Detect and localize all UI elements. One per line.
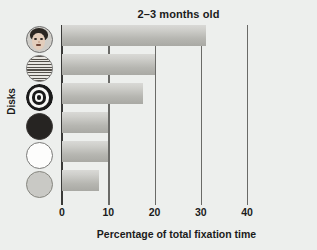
gridline-10 xyxy=(108,25,109,205)
disk-slot-gray xyxy=(22,170,56,199)
bar-row xyxy=(62,112,108,133)
x-axis-label: Percentage of total fixation time xyxy=(40,228,313,240)
bar-white xyxy=(62,141,108,162)
chart-title: 2–3 months old xyxy=(0,8,317,20)
newsprint-lines xyxy=(27,56,52,81)
bar-bullseye xyxy=(62,83,143,104)
bar-row xyxy=(62,170,99,191)
x-tick-label-0: 0 xyxy=(59,206,65,218)
face-nose xyxy=(38,41,40,43)
gridline-40 xyxy=(247,25,248,205)
disk-slot-face xyxy=(22,25,56,54)
bar-row xyxy=(62,83,143,104)
black-disk-icon xyxy=(26,113,53,140)
bar-row xyxy=(62,54,155,75)
y-axis-label: Disks xyxy=(6,77,17,127)
x-tick-label-30: 30 xyxy=(195,206,207,218)
gray-disk-icon xyxy=(26,171,53,198)
disk-slot-white xyxy=(22,141,56,170)
disk-slot-newsprint xyxy=(22,54,56,83)
disk-slot-bullseye xyxy=(22,83,56,112)
bullseye-disk-icon xyxy=(26,84,53,111)
x-tick-label-40: 40 xyxy=(241,206,253,218)
bar-newsprint xyxy=(62,54,155,75)
bar-row xyxy=(62,141,108,162)
plot-area xyxy=(62,25,247,201)
bar-gray xyxy=(62,170,99,191)
x-tick-label-10: 10 xyxy=(102,206,114,218)
x-axis-tick-labels: 010203040 xyxy=(0,206,317,222)
disk-stimulus-column xyxy=(22,25,56,201)
newsprint-disk-icon xyxy=(26,55,53,82)
x-tick-label-20: 20 xyxy=(149,206,161,218)
bullseye-center-dot xyxy=(37,95,41,99)
fixation-time-bar-chart: 2–3 months old Disks xyxy=(0,0,317,250)
gridline-20 xyxy=(155,25,156,205)
face-disk-icon xyxy=(26,26,53,53)
face-eye-left xyxy=(34,38,37,40)
face-mouth xyxy=(36,44,41,46)
bar-face xyxy=(62,25,206,46)
bar-black xyxy=(62,112,108,133)
bar-row xyxy=(62,25,206,46)
disk-slot-black xyxy=(22,112,56,141)
gridline-30 xyxy=(201,25,202,205)
white-disk-icon xyxy=(26,142,53,169)
face-eye-right xyxy=(40,38,43,40)
